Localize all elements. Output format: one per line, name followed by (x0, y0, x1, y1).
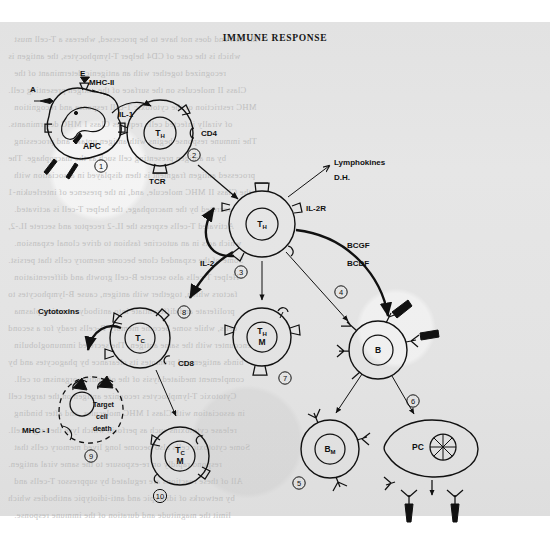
thm-label: TH (257, 326, 267, 337)
b-label: B (375, 345, 381, 355)
step-1-number: 1 (99, 162, 103, 171)
label-bcgf: BCGF (347, 241, 370, 250)
step-3-number: 3 (239, 268, 243, 277)
label-target-line3: death (93, 425, 112, 432)
label-epitope-e: E (80, 69, 86, 78)
antibody-antigen-complex-left (401, 490, 417, 522)
apc-cell-group: A E MHC-II APC 1 (30, 69, 125, 179)
step-8-number: 8 (182, 308, 186, 317)
thm-memory-label: M (258, 337, 265, 347)
label-il-1: IL-1 (119, 110, 134, 119)
pc-antibody-free (384, 477, 395, 490)
step-5-number: 5 (297, 479, 301, 488)
bm-sIg-bottom (333, 477, 347, 491)
step-4-number: 4 (339, 288, 343, 297)
antigen-bound-left (405, 504, 413, 522)
label-il-2r: IL-2R (306, 204, 326, 213)
step-10-number: 10 (156, 492, 164, 501)
thm-cell-group: TH M 7 (225, 308, 300, 384)
label-target-line2: cell (96, 413, 108, 420)
th2-il2r-right (292, 203, 302, 213)
tcm-cell-group: TC M 10 (151, 427, 210, 503)
bm-cell-group: BM 5 (293, 409, 370, 491)
b-cell-group: B 6 (337, 300, 439, 407)
label-cd8: CD8 (178, 359, 195, 368)
apc-mhc2-receptor-left (45, 124, 52, 132)
bm-label: BM (324, 444, 335, 455)
label-bcdf: BCDF (347, 259, 369, 268)
target-cell-nucleus (70, 392, 94, 416)
thm-il2r-right (290, 325, 300, 335)
target-cell-membrane (59, 377, 123, 443)
b-sIg-left (337, 345, 349, 357)
label-target-line1: Target (93, 401, 115, 409)
target-cell-group: MHC - I Target cell death 9 (22, 376, 123, 462)
tcm-cd8-bottomleft (154, 474, 158, 483)
antigen-particle-a (40, 99, 53, 104)
antibody-right (447, 490, 463, 504)
il2-autocrine-loop: IL-2 (190, 208, 234, 298)
arrow-tc-to-tcm (156, 370, 176, 416)
label-mhc-i: MHC - I (22, 426, 50, 435)
cytotoxins-arrow (88, 326, 121, 350)
th2-label: TH (257, 219, 267, 230)
target-mhc1-complex-1 (73, 378, 87, 390)
step-9-number: 9 (89, 452, 93, 461)
label-cd4: CD4 (201, 129, 218, 138)
tc-cell-group: TC CD8 8 (105, 306, 195, 368)
arrow-th1-to-th2 (198, 165, 238, 199)
antibody-antigen-complex-right (447, 490, 463, 522)
immune-response-diagram: A E MHC-II APC 1 TH IL-1 TCR (0, 0, 550, 542)
antigen-particle-b (44, 159, 57, 175)
tcm-label: TC (175, 445, 185, 456)
step-2-number: 2 (192, 151, 196, 160)
bm-sIg-top (308, 409, 320, 423)
th2-il2r-left (222, 203, 230, 211)
apc-nucleus (62, 107, 106, 139)
step-7-number: 7 (283, 374, 287, 383)
label-apc: APC (83, 141, 101, 151)
b-bound-antigen-2 (420, 330, 439, 340)
apc-granule-2 (74, 111, 77, 114)
pc-label: PC (412, 442, 424, 452)
b-sIg-upperleft (341, 317, 357, 331)
lymphokines-output: Lymphokines D.H. (288, 158, 386, 197)
bcgf-bcdf-signal: BCGF BCDF (296, 230, 388, 316)
th1-label: TH (155, 128, 165, 139)
label-tcr: TCR (149, 177, 166, 186)
antibody-left (401, 490, 417, 504)
label-lymphokines: Lymphokines (334, 158, 386, 167)
th-cell-1-group: TH IL-1 TCR CD4 2 (112, 100, 218, 186)
antigen-bound-right (451, 504, 459, 522)
step-6-number: 6 (411, 397, 415, 406)
tc-cd8-receptor (164, 356, 170, 364)
lymphokines-arrow (288, 166, 329, 197)
diagram-page: the cell and does not have to be process… (0, 0, 550, 542)
th-cell-2-group: TH IL-2R 3 (222, 183, 326, 278)
label-antigen-a: A (30, 85, 36, 94)
tcm-memory-label: M (176, 456, 183, 466)
label-mhc-ii: MHC-II (89, 78, 114, 87)
label-il-2: IL-2 (200, 259, 215, 268)
arrow-b-to-bm (336, 374, 362, 413)
antigen-particle-c (66, 163, 78, 179)
pc-membrane (384, 420, 478, 477)
mhc2-label-leader (92, 90, 110, 96)
thm-receptor-topright (278, 308, 288, 312)
label-dh: D.H. (334, 173, 350, 182)
label-cytotoxins: Cytotoxins (38, 307, 80, 316)
b-sIg-right (406, 335, 419, 347)
b-bound-antigen-1 (392, 300, 412, 318)
cytotoxins-release: Cytotoxins (38, 307, 121, 350)
tc-label: TC (135, 333, 145, 344)
pc-cell-group: PC (384, 420, 478, 522)
thm-tcr-bottom (253, 366, 267, 375)
bcgf-bcdf-arrow (296, 230, 388, 316)
